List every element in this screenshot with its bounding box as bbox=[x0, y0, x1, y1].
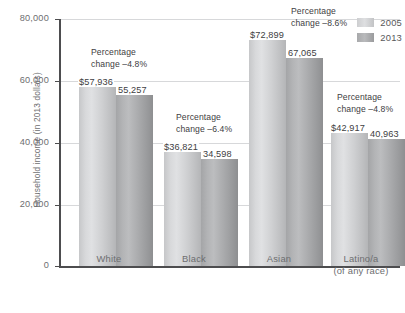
bar-label-white-2005: $57,936 bbox=[78, 77, 114, 87]
y-tick-label-40000: 40,000 bbox=[0, 137, 49, 147]
legend-label-2013: 2013 bbox=[380, 32, 402, 43]
bar-label-latino-2005: $42,917 bbox=[330, 123, 366, 133]
x-axis-label-latino: Latino/a (of any race) bbox=[316, 253, 405, 277]
x-axis-label-asian: Asian bbox=[234, 253, 324, 265]
bar-label-black-2013: 34,598 bbox=[202, 149, 233, 159]
bar-label-white-2013: 55,257 bbox=[117, 85, 148, 95]
bar-group-latino: Percentage change –4.8% $42,917 40,963 bbox=[331, 19, 405, 266]
y-tick-mark-0 bbox=[55, 266, 59, 267]
bar-group-asian: Percentage change –8.6% $72,899 67,065 bbox=[249, 19, 324, 266]
bar-white-2005[interactable]: $57,936 bbox=[79, 87, 116, 266]
x-axis-label-white: White bbox=[64, 253, 154, 265]
x-axis-label-black: Black bbox=[149, 253, 239, 265]
legend-item-2005[interactable]: 2005 bbox=[357, 17, 402, 28]
bar-group-black: Percentage change –6.4% $36,821 34,598 bbox=[164, 19, 239, 266]
bar-white-2013[interactable]: 55,257 bbox=[116, 95, 153, 266]
y-tick-label-0: 0 bbox=[0, 260, 49, 270]
legend-swatch-2013-icon bbox=[357, 33, 374, 42]
plot-area: 80,000 60,000 40,000 20,000 0 Percentage… bbox=[59, 19, 400, 268]
x-axis-label-asian-text: Asian bbox=[267, 253, 291, 264]
bar-label-asian-2005: $72,899 bbox=[249, 30, 285, 40]
bar-black-2005[interactable]: $36,821 bbox=[164, 152, 201, 266]
x-axis-label-black-text: Black bbox=[182, 253, 206, 264]
legend-swatch-2005-icon bbox=[357, 18, 374, 27]
bar-black-2013[interactable]: 34,598 bbox=[201, 159, 238, 266]
legend-item-2013[interactable]: 2013 bbox=[357, 32, 402, 43]
x-axis-label-latino-text: Latino/a bbox=[344, 253, 379, 264]
y-tick-label-60000: 60,000 bbox=[0, 75, 49, 85]
x-axis-label-white-text: White bbox=[97, 253, 122, 264]
bar-asian-2013[interactable]: 67,065 bbox=[286, 58, 323, 266]
legend-label-2005: 2005 bbox=[380, 17, 402, 28]
y-tick-mark-80000 bbox=[55, 19, 59, 20]
x-axis-label-latino-sublabel: (of any race) bbox=[316, 265, 405, 277]
y-tick-label-20000: 20,000 bbox=[0, 199, 49, 209]
bar-latino-2005[interactable]: $42,917 bbox=[331, 133, 368, 266]
bar-group-white: Percentage change –4.8% $57,936 55,257 bbox=[79, 19, 154, 266]
bar-label-black-2005: $36,821 bbox=[163, 142, 199, 152]
bar-latino-2013[interactable]: 40,963 bbox=[368, 139, 405, 266]
legend: 2005 2013 bbox=[357, 17, 402, 43]
y-tick-mark-60000 bbox=[55, 81, 59, 82]
y-tick-label-80000: 80,000 bbox=[0, 13, 49, 23]
y-tick-mark-40000 bbox=[55, 143, 59, 144]
bar-label-asian-2013: 67,065 bbox=[287, 48, 318, 58]
y-axis-line bbox=[59, 19, 61, 268]
bar-label-latino-2013: 40,963 bbox=[369, 129, 400, 139]
bar-chart: Household income (in 2013 dollars) 80,00… bbox=[0, 0, 405, 313]
bar-asian-2005[interactable]: $72,899 bbox=[249, 40, 286, 266]
annotation-asian-line1: Percentage bbox=[291, 6, 347, 18]
y-tick-mark-20000 bbox=[55, 205, 59, 206]
